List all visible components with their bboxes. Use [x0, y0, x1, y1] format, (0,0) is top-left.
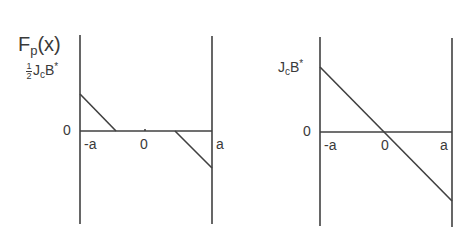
half-fraction: 12	[26, 62, 32, 81]
label-base: J	[278, 59, 285, 75]
y-axis-title: Fp(x)	[18, 34, 61, 57]
left-panel-y-max-label: 12JcB*	[26, 62, 58, 81]
left-panel-y-zero-label: 0	[63, 123, 71, 137]
fraction-denominator: 2	[26, 72, 31, 81]
label-base: J	[33, 62, 40, 78]
title-base: F	[18, 33, 30, 55]
diagram-canvas	[0, 0, 469, 240]
label-tail: B	[45, 62, 54, 78]
label-tail: B	[290, 59, 299, 75]
left-panel-fp-curve-right	[175, 131, 212, 168]
left-panel-x-tick-zero: 0	[140, 137, 148, 151]
right-panel-x-tick-a: a	[440, 138, 448, 152]
title-arg: (x)	[37, 33, 60, 55]
left-panel-x-tick-neg-a: -a	[84, 137, 96, 151]
right-panel-x-tick-neg-a: -a	[324, 138, 336, 152]
right-panel-x-tick-zero: 0	[381, 138, 389, 152]
fraction-numerator: 1	[26, 62, 31, 71]
right-panel-fp-curve	[320, 67, 452, 201]
right-panel-y-max-label: JcB*	[278, 59, 303, 77]
left-panel-x-tick-a: a	[216, 137, 224, 151]
label-superscript: *	[54, 61, 58, 72]
left-panel-fp-curve-left	[80, 94, 116, 131]
right-panel-y-zero-label: 0	[303, 124, 311, 138]
label-superscript: *	[299, 58, 303, 69]
